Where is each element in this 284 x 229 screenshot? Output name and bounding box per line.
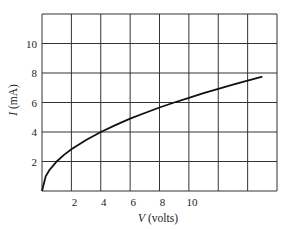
x-axis-unit: (volts) <box>145 212 178 225</box>
x-tick-label: 4 <box>101 196 107 208</box>
y-tick-label: 4 <box>32 126 38 138</box>
y-tick-label: 10 <box>26 38 38 50</box>
x-tick-label: 10 <box>186 196 198 208</box>
y-tick-label: 8 <box>32 67 38 79</box>
chart-grid <box>42 14 277 191</box>
x-axis-label: V (volts) <box>138 212 178 225</box>
x-tick-label: 6 <box>130 196 136 208</box>
iv-chart: 246810 246810 V (volts) I (mA) <box>0 0 284 229</box>
y-tick-label: 2 <box>32 156 38 168</box>
x-tick-label: 2 <box>72 196 78 208</box>
x-axis-ticks: 246810 <box>72 196 198 208</box>
y-axis-label: I (mA) <box>7 84 20 117</box>
y-axis-unit: (mA) <box>7 84 20 112</box>
x-tick-label: 8 <box>160 196 166 208</box>
y-tick-label: 6 <box>32 97 38 109</box>
iv-curve <box>42 77 262 191</box>
y-axis-ticks: 246810 <box>26 38 38 168</box>
